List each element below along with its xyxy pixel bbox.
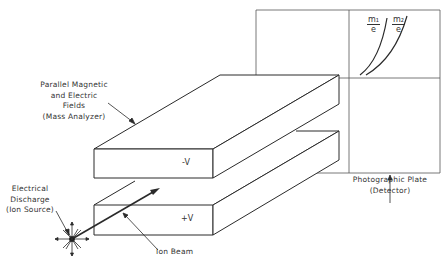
ion-source-burst [55,222,89,256]
detector-label-line1: Photographic Plate [348,175,432,186]
mass-analyzer-label-line1: Parallel Magnetic [34,80,114,91]
mass2-numerator: m₂ [392,15,405,25]
mass-analyzer-label-line2: and Electric [34,91,114,102]
mass2-ratio: m₂ e [392,15,405,34]
bottom-plate-voltage: +V [181,214,193,223]
mass-analyzer-label-line3: Fields [34,101,114,112]
top-plate-voltage: -V [182,158,190,167]
mass-analyzer-label-line4: (Mass Analyzer) [34,112,114,123]
mass-analyzer-label: Parallel Magnetic and Electric Fields (M… [34,80,114,122]
mass1-numerator: m₁ [367,15,380,25]
ion-source-label-line2: Discharge [2,195,58,206]
detector-label-line2: (Detector) [348,186,432,197]
diagram-canvas [0,0,448,262]
detector-label: Photographic Plate (Detector) [348,175,432,196]
ion-beam-label-text: Ion Beam [156,247,193,256]
ion-source-label-line1: Electrical [2,184,58,195]
mass1-denominator: e [367,25,380,34]
ion-source-label-line3: (Ion Source) [2,205,58,216]
mass1-ratio: m₁ e [367,15,380,34]
ion-beam-label: Ion Beam [156,247,206,258]
mass2-denominator: e [392,25,405,34]
ion-source-label: Electrical Discharge (Ion Source) [2,184,58,216]
